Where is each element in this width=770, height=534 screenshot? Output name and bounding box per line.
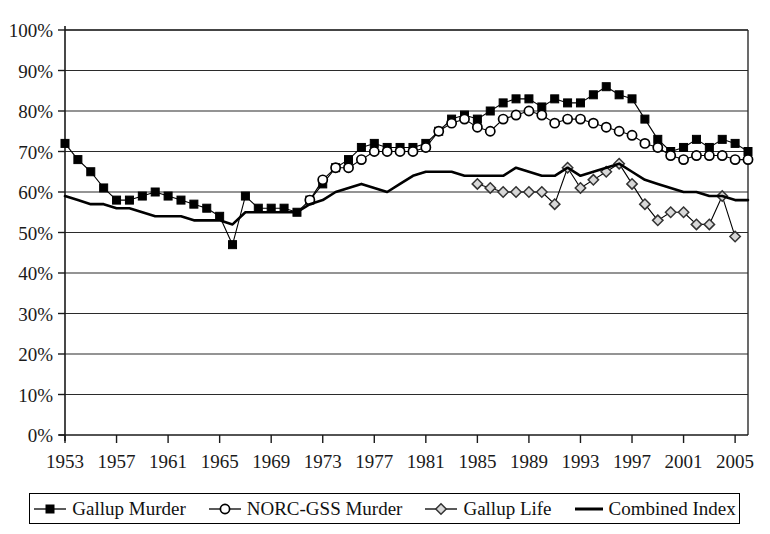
marker-open-diamond — [511, 187, 521, 197]
marker-open-circle — [615, 127, 624, 136]
marker-filled-square — [61, 139, 69, 147]
marker-open-circle — [627, 131, 636, 140]
marker-open-circle — [344, 163, 353, 172]
marker-open-circle — [692, 151, 701, 160]
marker-open-diamond — [472, 179, 482, 189]
chart-container: 0%10%20%30%40%50%60%70%80%90%100%1953195… — [0, 0, 770, 534]
marker-open-circle — [499, 115, 508, 124]
marker-filled-square — [525, 95, 533, 103]
x-tick-label: 1969 — [252, 451, 290, 472]
marker-open-circle — [434, 127, 443, 136]
marker-open-circle — [576, 115, 585, 124]
x-tick-label: 1981 — [407, 451, 445, 472]
x-tick-label: 1989 — [510, 451, 548, 472]
marker-open-circle — [679, 155, 688, 164]
y-tick-label: 70% — [18, 142, 53, 163]
marker-open-circle — [743, 155, 752, 164]
marker-open-circle — [318, 175, 327, 184]
marker-open-circle — [524, 106, 533, 115]
marker-open-diamond — [436, 503, 446, 513]
series-line — [65, 87, 748, 245]
marker-open-circle — [705, 151, 714, 160]
x-tick-label: 2005 — [716, 451, 754, 472]
marker-filled-square — [46, 505, 54, 513]
legend-item-label: Gallup Murder — [72, 498, 185, 520]
legend-item-combined-index[interactable]: Combined Index — [563, 498, 747, 520]
marker-filled-square — [512, 95, 520, 103]
marker-filled-square — [113, 196, 121, 204]
marker-open-diamond — [498, 187, 508, 197]
x-tick-label: 1973 — [304, 451, 342, 472]
marker-open-circle — [473, 123, 482, 132]
legend-item-gallup-life[interactable]: Gallup Life — [413, 498, 562, 520]
marker-open-circle — [357, 155, 366, 164]
marker-open-circle — [666, 151, 675, 160]
marker-filled-square — [628, 95, 636, 103]
marker-open-diamond — [640, 199, 650, 209]
marker-filled-square — [241, 192, 249, 200]
legend-marker-filled-square-icon — [33, 501, 67, 517]
y-tick-label: 20% — [18, 344, 53, 365]
marker-open-diamond — [665, 207, 675, 217]
marker-filled-square — [203, 204, 211, 212]
marker-filled-square — [151, 188, 159, 196]
legend-marker-open-diamond-icon — [424, 501, 458, 517]
chart-legend: Gallup MurderNORC-GSS MurderGallup LifeC… — [29, 493, 740, 524]
marker-filled-square — [564, 99, 572, 107]
marker-open-circle — [653, 143, 662, 152]
marker-filled-square — [100, 184, 108, 192]
marker-open-circle — [537, 110, 546, 119]
x-tick-label: 1985 — [458, 451, 496, 472]
marker-open-circle — [563, 115, 572, 124]
marker-open-circle — [421, 143, 430, 152]
marker-open-diamond — [588, 175, 598, 185]
marker-open-circle — [731, 155, 740, 164]
marker-filled-square — [229, 241, 237, 249]
marker-filled-square — [74, 156, 82, 164]
marker-open-circle — [370, 147, 379, 156]
x-tick-label: 1993 — [561, 451, 599, 472]
marker-open-diamond — [704, 219, 714, 229]
marker-filled-square — [357, 143, 365, 151]
marker-open-circle — [511, 110, 520, 119]
y-tick-label: 40% — [18, 263, 53, 284]
legend-item-gallup-murder[interactable]: Gallup Murder — [22, 498, 196, 520]
legend-item-label: NORC-GSS Murder — [247, 498, 403, 520]
marker-filled-square — [576, 99, 584, 107]
marker-filled-square — [718, 135, 726, 143]
x-tick-label: 1953 — [46, 451, 84, 472]
marker-filled-square — [125, 196, 133, 204]
marker-filled-square — [499, 99, 507, 107]
x-tick-label: 1961 — [149, 451, 187, 472]
x-tick-label: 1977 — [355, 451, 393, 472]
marker-open-circle — [550, 119, 559, 128]
legend-item-norc-gss-murder[interactable]: NORC-GSS Murder — [197, 498, 414, 520]
y-tick-label: 50% — [18, 223, 53, 244]
marker-open-circle — [331, 163, 340, 172]
x-tick-label: 1997 — [613, 451, 651, 472]
y-tick-label: 10% — [18, 385, 53, 406]
x-tick-label: 1965 — [201, 451, 239, 472]
marker-filled-square — [641, 115, 649, 123]
marker-open-circle — [602, 123, 611, 132]
marker-filled-square — [177, 196, 185, 204]
marker-open-circle — [383, 147, 392, 156]
marker-filled-square — [589, 91, 597, 99]
y-tick-label: 0% — [28, 425, 54, 446]
marker-open-circle — [460, 115, 469, 124]
marker-filled-square — [680, 143, 688, 151]
y-tick-label: 80% — [18, 101, 53, 122]
marker-open-circle — [408, 147, 417, 156]
marker-filled-square — [164, 192, 172, 200]
marker-open-circle — [718, 151, 727, 160]
legend-marker-line-icon — [574, 501, 604, 517]
y-tick-label: 30% — [18, 304, 53, 325]
legend-marker-open-circle-icon — [208, 501, 242, 517]
marker-open-circle — [395, 147, 404, 156]
legend-item-label: Gallup Life — [463, 498, 551, 520]
marker-open-diamond — [627, 179, 637, 189]
marker-filled-square — [731, 139, 739, 147]
series-gallup-murder — [61, 83, 752, 249]
marker-open-diamond — [653, 215, 663, 225]
marker-open-circle — [220, 504, 229, 513]
